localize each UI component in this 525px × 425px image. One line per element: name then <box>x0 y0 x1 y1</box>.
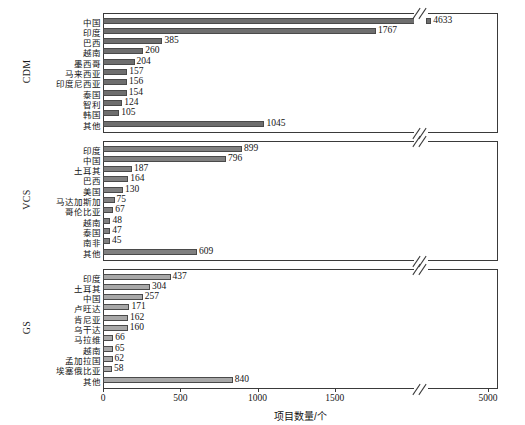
bar-value-label: 840 <box>235 374 249 384</box>
x-axis-tick <box>258 389 259 392</box>
bar-value-label: 124 <box>124 97 138 107</box>
bar <box>103 274 171 280</box>
bar-segment-high <box>426 18 431 24</box>
bar <box>103 146 242 152</box>
bar-value-label: 304 <box>152 281 166 291</box>
x-axis-title: 项目数量/个 <box>53 408 525 423</box>
bar-value-label: 47 <box>112 225 122 235</box>
bar-value-label: 171 <box>131 301 145 311</box>
bar-value-label: 58 <box>114 363 124 373</box>
category-label: 其他 <box>30 375 101 387</box>
bar <box>103 28 376 34</box>
bar <box>103 59 135 65</box>
bar <box>103 335 113 341</box>
bar <box>103 90 127 96</box>
bar <box>103 110 119 116</box>
bar-value-label: 1767 <box>378 25 397 35</box>
bar-value-label: 257 <box>145 291 159 301</box>
bar-value-label: 204 <box>137 56 151 66</box>
category-label: 其他 <box>30 247 101 259</box>
bar-segment-low <box>103 18 414 24</box>
bar-value-label: 75 <box>117 194 127 204</box>
bar-value-label: 1045 <box>266 118 285 128</box>
bar-value-label: 65 <box>115 343 125 353</box>
bar-value-label: 154 <box>129 87 143 97</box>
bar <box>103 284 150 290</box>
bar-value-label: 105 <box>121 107 135 117</box>
bar <box>103 187 123 193</box>
bar-value-label: 385 <box>164 35 178 45</box>
x-axis-tick-label: 0 <box>78 393 128 403</box>
bar-value-label: 187 <box>134 163 148 173</box>
chart-figure: CDM中国4633印度1767巴西385越南260墨西哥204马来西亚157印度… <box>0 0 525 425</box>
bar <box>103 218 110 224</box>
x-axis-tick-label: 1500 <box>310 393 360 403</box>
bar-value-label: 66 <box>115 332 125 342</box>
bar <box>103 176 128 182</box>
x-axis-tick-label: 500 <box>155 393 205 403</box>
bar <box>103 197 115 203</box>
bar-value-label: 48 <box>112 215 122 225</box>
category-label: 其他 <box>30 119 101 131</box>
bar-value-label: 62 <box>115 353 125 363</box>
bar <box>103 238 110 244</box>
bar <box>103 48 143 54</box>
bar <box>103 249 197 255</box>
bar-value-label: 67 <box>115 204 125 214</box>
x-axis-tick <box>180 389 181 392</box>
x-axis-tick <box>103 389 104 392</box>
bar-value-label: 796 <box>228 153 242 163</box>
bar <box>103 325 128 331</box>
x-axis-tick-label: 1000 <box>233 393 283 403</box>
x-axis-tick <box>488 389 489 392</box>
bar-value-label: 4633 <box>433 15 452 25</box>
bar <box>103 315 128 321</box>
bar-value-label: 45 <box>112 235 122 245</box>
bar <box>103 366 112 372</box>
bar-value-label: 164 <box>130 173 144 183</box>
bar <box>103 207 113 213</box>
bar <box>103 356 113 362</box>
x-axis-tick <box>335 389 336 392</box>
bar <box>103 121 264 127</box>
bar <box>103 228 110 234</box>
bar-value-label: 162 <box>130 312 144 322</box>
bar <box>103 166 132 172</box>
bar-value-label: 899 <box>244 143 258 153</box>
bar <box>103 156 226 162</box>
bar <box>103 69 127 75</box>
bar <box>103 346 113 352</box>
bar <box>103 377 233 383</box>
bar-value-label: 130 <box>125 184 139 194</box>
bar <box>103 79 127 85</box>
bar <box>103 294 143 300</box>
bar-value-label: 160 <box>130 322 144 332</box>
bar <box>103 304 129 310</box>
x-axis-tick-label: 5000 <box>463 393 513 403</box>
bar-value-label: 437 <box>173 271 187 281</box>
bar <box>103 100 122 106</box>
bar-value-label: 260 <box>145 45 159 55</box>
bar <box>103 38 162 44</box>
bar-value-label: 609 <box>199 246 213 256</box>
bar-value-label: 156 <box>129 76 143 86</box>
bar-value-label: 157 <box>129 66 143 76</box>
